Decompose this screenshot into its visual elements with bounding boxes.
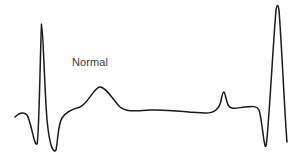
ecg-diagram: Normal: [0, 0, 302, 160]
normal-label: Normal: [72, 56, 108, 68]
ecg-trace-line: [15, 6, 287, 151]
ecg-waveform: [0, 0, 302, 160]
